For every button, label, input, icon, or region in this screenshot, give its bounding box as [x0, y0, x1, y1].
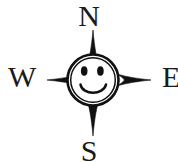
- cardinal-label-east: E: [162, 62, 178, 92]
- left-eye: [81, 66, 88, 76]
- compass-rose-figure: N W E S: [0, 0, 178, 162]
- cardinal-label-west: W: [8, 62, 36, 92]
- face-inner-circle: [71, 58, 116, 103]
- cardinal-label-south: S: [0, 136, 178, 162]
- right-eye: [97, 66, 104, 76]
- smiley-face: [68, 55, 119, 106]
- cardinal-label-north: N: [0, 1, 178, 31]
